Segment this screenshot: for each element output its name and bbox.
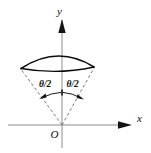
x-axis-arrowhead [118, 121, 132, 129]
cap-base-curve [21, 67, 94, 71]
origin-label: O [51, 128, 59, 140]
angle-arc-left-arrowhead [39, 94, 46, 99]
left-half-angle-label: θ/2 [39, 79, 52, 89]
cap-upper-arc [21, 56, 94, 68]
y-axis-label: y [56, 5, 62, 17]
right-half-angle-label: θ/2 [67, 79, 80, 89]
y-axis-arrowhead [58, 19, 65, 33]
diagram-canvas: θ/2 θ/2 y x O [0, 0, 151, 153]
x-axis-label: x [136, 112, 142, 124]
cone-angle-diagram: θ/2 θ/2 y x O [0, 0, 151, 153]
cone-edge-left [21, 69, 63, 126]
angle-arc-right-arrowhead [77, 94, 84, 99]
